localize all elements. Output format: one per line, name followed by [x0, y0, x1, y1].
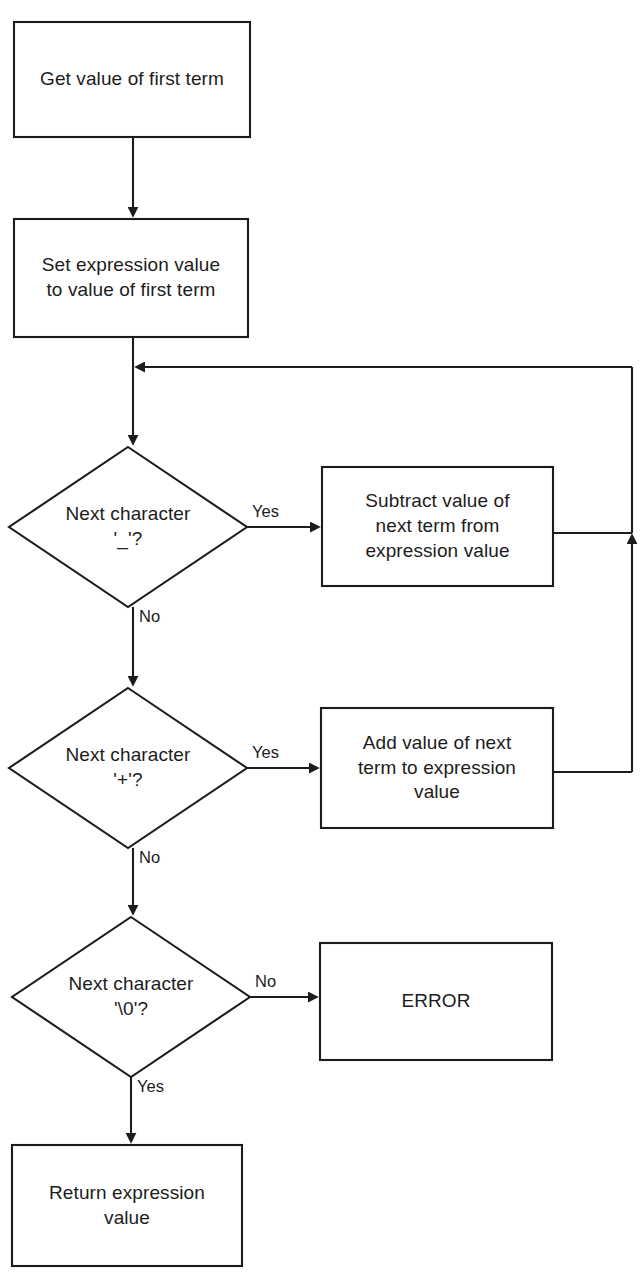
flowchart-canvas: Get value of first term Set expression v…	[0, 0, 643, 1279]
node-set-expression-value[interactable]	[14, 219, 248, 337]
node-add-term[interactable]	[321, 708, 553, 828]
node-decide-minus[interactable]	[9, 447, 247, 607]
node-return-value[interactable]	[12, 1145, 242, 1266]
node-get-first-term[interactable]	[14, 22, 250, 137]
flowchart-graphics	[0, 0, 643, 1279]
node-decide-plus[interactable]	[9, 688, 247, 848]
node-decide-nul[interactable]	[12, 917, 250, 1077]
node-error[interactable]	[320, 943, 552, 1060]
node-subtract-term[interactable]	[322, 467, 553, 586]
